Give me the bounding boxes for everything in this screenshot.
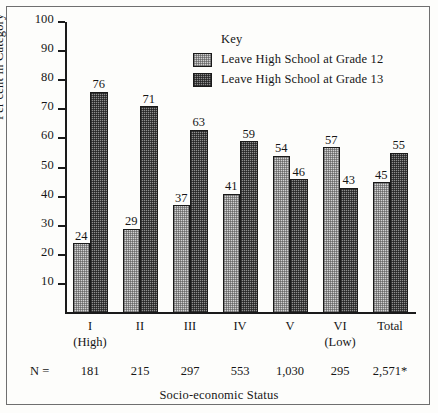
bar: 63: [190, 130, 208, 313]
bar: 59: [240, 141, 258, 313]
y-axis-tick-mark: [58, 167, 65, 169]
chart-legend: Key Leave High School at Grade 12Leave H…: [193, 32, 403, 92]
bar: 57: [323, 147, 341, 313]
bar-value-label: 37: [175, 192, 188, 205]
bar-value-label: 24: [75, 230, 88, 243]
legend-title: Key: [221, 32, 403, 47]
y-axis-title: Per cent in Category: [0, 14, 7, 120]
y-axis-tick-label: 90: [41, 42, 54, 55]
bar-value-label: 76: [93, 78, 106, 91]
bar-value-label: 71: [143, 93, 156, 106]
n-value: 2,571*: [350, 364, 430, 379]
bar-value-label: 57: [325, 134, 338, 147]
bar: 54: [273, 156, 291, 313]
y-axis-tick-label: 80: [41, 71, 54, 84]
legend-entry: Leave High School at Grade 12: [193, 52, 403, 67]
n-label: N =: [30, 364, 49, 379]
x-axis-title: Socio-economic Status: [0, 388, 438, 403]
bar: 76: [90, 92, 108, 313]
bar: 46: [290, 179, 308, 313]
y-axis-tick-mark: [58, 254, 65, 256]
bar-value-label: 45: [375, 169, 388, 182]
y-axis-tick-label: 100: [35, 13, 54, 26]
y-axis-tick-label: 40: [41, 188, 54, 201]
y-axis-tick-mark: [58, 108, 65, 110]
bar: 55: [390, 153, 408, 313]
category-sublabel: (High): [50, 335, 130, 351]
chart-figure: 100908070605040302010 Per cent in Catego…: [0, 0, 438, 413]
y-axis-tick-mark: [58, 137, 65, 139]
legend-entries: Leave High School at Grade 12Leave High …: [193, 52, 403, 87]
y-axis-tick-mark: [58, 79, 65, 81]
y-axis-tick-label: 30: [41, 217, 54, 230]
y-axis-tick-label: 70: [41, 100, 54, 113]
legend-label: Leave High School at Grade 12: [221, 52, 383, 67]
y-axis-tick-mark: [58, 225, 65, 227]
bar-value-label: 59: [243, 128, 256, 141]
bar-value-label: 43: [343, 174, 356, 187]
y-axis-tick-label: 50: [41, 159, 54, 172]
legend-swatch-dark: [193, 73, 212, 87]
y-axis-tick-mark: [58, 50, 65, 52]
legend-entry: Leave High School at Grade 13: [193, 72, 403, 87]
bar: 45: [373, 182, 391, 313]
category-sublabel: (Low): [300, 335, 380, 351]
bar: 43: [340, 188, 358, 313]
y-axis-tick-label: 60: [41, 129, 54, 142]
y-axis-tick-mark: [58, 21, 65, 23]
bar: 37: [173, 205, 191, 313]
bar-value-label: 54: [275, 142, 288, 155]
y-axis-tick-label: 20: [41, 246, 54, 259]
bar-value-label: 41: [225, 180, 238, 193]
bar-value-label: 55: [393, 139, 406, 152]
bar-value-label: 63: [193, 116, 206, 129]
bar-value-label: 29: [125, 215, 138, 228]
bar: 71: [140, 106, 158, 313]
y-axis-tick-mark: [58, 283, 65, 285]
y-axis-tick-mark: [58, 196, 65, 198]
bar-value-label: 46: [293, 166, 306, 179]
category-name: Total: [350, 319, 430, 335]
bar: 24: [73, 243, 91, 313]
bar: 29: [123, 229, 141, 313]
legend-label: Leave High School at Grade 13: [221, 72, 383, 87]
y-axis-tick-label: 10: [41, 275, 54, 288]
x-axis-category-label: Total: [350, 319, 430, 335]
legend-swatch-light: [193, 53, 212, 67]
bar: 41: [223, 194, 241, 313]
